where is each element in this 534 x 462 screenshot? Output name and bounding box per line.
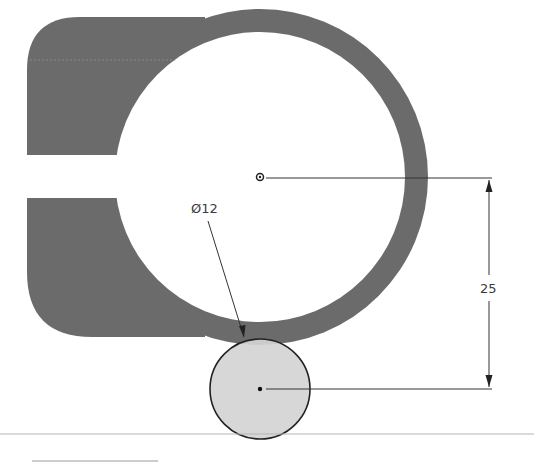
- small-circle-center-point[interactable]: [258, 387, 262, 391]
- vertical-dimension-label[interactable]: 25: [479, 282, 498, 296]
- sketch-canvas[interactable]: [0, 0, 534, 462]
- diameter-dimension-label[interactable]: Ø12: [190, 202, 219, 216]
- arrowhead-up-icon: [486, 180, 493, 192]
- ring-center-dot: [259, 176, 261, 178]
- arrowhead-down-icon: [486, 375, 493, 387]
- part-body[interactable]: [27, 9, 428, 345]
